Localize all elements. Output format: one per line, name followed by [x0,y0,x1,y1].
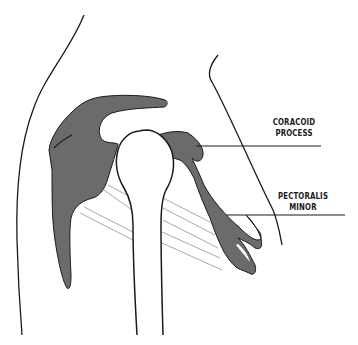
humerus-shape [116,130,173,335]
shoulder-diagram: CORACOID PROCESS PECTORALIS MINOR [0,0,358,345]
pectoralis-label-line2: MINOR [276,202,330,213]
diagram-canvas [0,0,358,345]
pectoralis-label-line1: PECTORALIS [276,191,330,202]
coracoid-label-line1: CORACOID [268,117,320,128]
coracoid-process-label: CORACOID PROCESS [268,117,320,139]
coracoid-label-line2: PROCESS [268,128,320,139]
pectoralis-minor-label: PECTORALIS MINOR [276,191,330,213]
